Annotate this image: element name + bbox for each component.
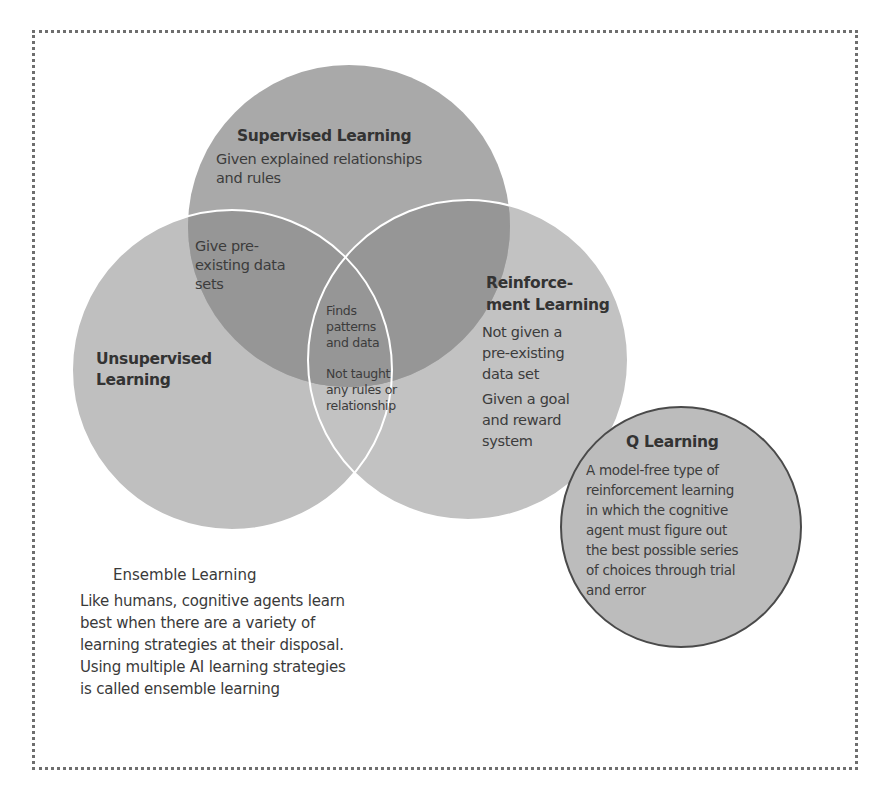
q-learning-line3: in which the cognitive (586, 500, 728, 521)
reinforcement-desc2-line1: Given a goal (482, 390, 569, 409)
supervised-description: Given explained relationships and rules (216, 150, 426, 188)
unsupervised-title-line1: Unsupervised (96, 349, 212, 370)
q-learning-line7: and error (586, 580, 646, 601)
center-line6: relationship (326, 398, 396, 414)
q-learning-line1: A model-free type of (586, 460, 719, 481)
overlap-su-line3: sets (195, 275, 224, 294)
center-line1: Finds (326, 303, 357, 319)
reinforcement-title-line2: ment Learning (486, 295, 610, 316)
reinforcement-desc1-line1: Not given a (482, 323, 562, 342)
q-learning-line6: of choices through trial (586, 560, 735, 581)
supervised-title: Supervised Learning (237, 126, 411, 147)
overlap-su-line1: Give pre- (195, 237, 259, 256)
q-learning-title: Q Learning (626, 432, 719, 453)
center-line5: any rules or (326, 382, 397, 398)
q-learning-line4: agent must figure out (586, 520, 727, 541)
center-line2: patterns (326, 319, 376, 335)
reinforcement-desc2-line3: system (482, 432, 533, 451)
center-line4: Not taught (326, 366, 390, 382)
q-learning-line5: the best possible series (586, 540, 738, 561)
ensemble-body: Like humans, cognitive agents learn best… (80, 590, 350, 700)
unsupervised-title-line2: Learning (96, 370, 171, 391)
reinforcement-title-line1: Reinforce- (486, 273, 573, 294)
reinforcement-desc2-line2: and reward (482, 411, 561, 430)
center-line3: and data (326, 335, 379, 351)
overlap-su-line2: existing data (195, 256, 285, 275)
ensemble-title: Ensemble Learning (113, 566, 256, 584)
q-learning-line2: reinforcement learning (586, 480, 734, 501)
reinforcement-desc1-line2: pre-existing (482, 344, 564, 363)
reinforcement-desc1-line3: data set (482, 365, 539, 384)
